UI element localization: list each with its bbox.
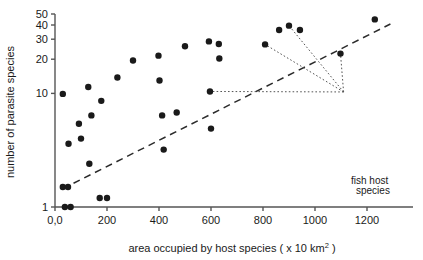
x-tick-label: 0,0 <box>47 214 62 226</box>
chart-canvas: 11020304050 0,020040060080010001200 numb… <box>0 0 423 260</box>
data-point <box>297 27 303 33</box>
x-tick-label: 400 <box>150 214 168 226</box>
x-tick-label: 200 <box>98 214 116 226</box>
data-point <box>76 121 82 127</box>
y-tick-label: 20 <box>36 53 48 65</box>
data-point <box>276 27 282 33</box>
data-point <box>159 112 165 118</box>
data-point <box>207 88 213 94</box>
data-point <box>262 41 268 47</box>
scatter-plot-figure: 11020304050 0,020040060080010001200 numb… <box>0 0 423 260</box>
data-point <box>60 91 66 97</box>
data-point <box>86 161 92 167</box>
x-axis-title-tail: ) <box>329 242 336 254</box>
y-axis-title: number of parasite species <box>4 45 16 178</box>
x-tick-label: 1000 <box>303 214 327 226</box>
data-point <box>216 41 222 47</box>
data-point <box>114 74 120 80</box>
data-point <box>98 98 104 104</box>
data-point <box>337 50 343 56</box>
x-tick-label: 1200 <box>355 214 379 226</box>
x-axis-title-main: area occupied by host species ( x 10 km <box>128 242 324 254</box>
x-axis-title: area occupied by host species ( x 10 km2… <box>128 241 335 254</box>
data-point <box>182 43 188 49</box>
data-point <box>65 184 71 190</box>
data-point <box>97 195 103 201</box>
data-point <box>173 109 179 115</box>
data-point <box>104 195 110 201</box>
data-point <box>78 135 84 141</box>
data-point <box>216 55 222 61</box>
y-tick-label: 40 <box>36 19 48 31</box>
data-point <box>130 57 136 63</box>
data-point <box>160 146 166 152</box>
y-tick-label: 1 <box>42 201 48 213</box>
data-point <box>156 77 162 83</box>
data-point <box>372 16 378 22</box>
y-tick-label: 10 <box>36 87 48 99</box>
data-point <box>65 141 71 147</box>
y-tick-label: 30 <box>36 33 48 45</box>
data-point <box>208 125 214 131</box>
data-point <box>286 22 292 28</box>
data-point <box>155 52 161 58</box>
x-tick-label: 600 <box>202 214 220 226</box>
data-point <box>88 112 94 118</box>
data-point <box>67 204 73 210</box>
data-point <box>62 204 68 210</box>
data-point <box>206 38 212 44</box>
y-tick-label: 50 <box>36 8 48 20</box>
x-tick-label: 800 <box>254 214 272 226</box>
annotation-fish-host-species-line2: species <box>356 185 390 196</box>
data-point <box>85 84 91 90</box>
